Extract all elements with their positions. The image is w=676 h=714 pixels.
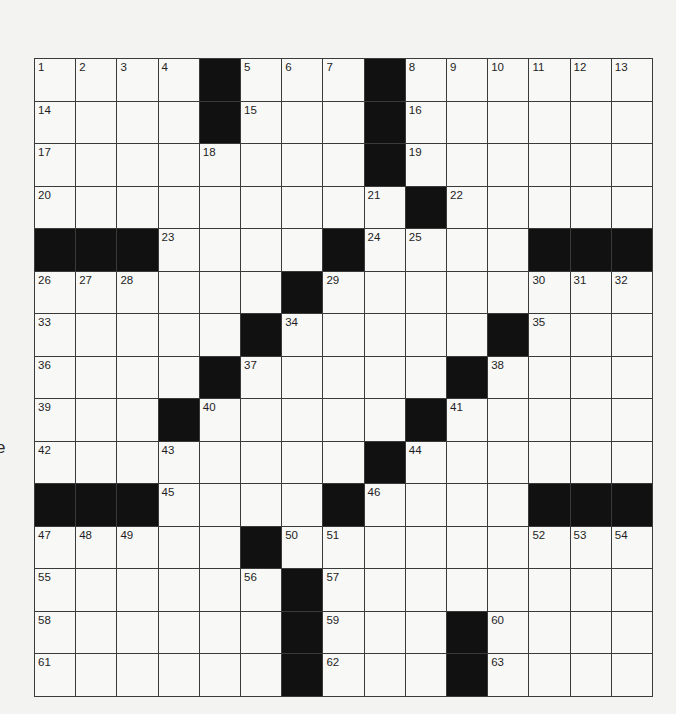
answer-cell[interactable] [611, 313, 652, 356]
answer-cell[interactable] [322, 441, 363, 484]
answer-cell[interactable]: 61 [34, 653, 75, 696]
answer-cell[interactable]: 45 [158, 483, 199, 526]
answer-cell[interactable] [487, 271, 528, 314]
answer-cell[interactable]: 18 [199, 143, 240, 186]
answer-cell[interactable] [611, 101, 652, 144]
answer-cell[interactable] [116, 611, 157, 654]
answer-cell[interactable] [75, 568, 116, 611]
answer-cell[interactable] [281, 228, 322, 271]
answer-cell[interactable]: 14 [34, 101, 75, 144]
answer-cell[interactable] [116, 313, 157, 356]
answer-cell[interactable]: 3 [116, 58, 157, 101]
answer-cell[interactable] [446, 483, 487, 526]
answer-cell[interactable] [487, 483, 528, 526]
answer-cell[interactable] [199, 313, 240, 356]
answer-cell[interactable] [158, 313, 199, 356]
answer-cell[interactable]: 46 [364, 483, 405, 526]
answer-cell[interactable]: 9 [446, 58, 487, 101]
answer-cell[interactable]: 38 [487, 356, 528, 399]
answer-cell[interactable]: 39 [34, 398, 75, 441]
answer-cell[interactable]: 22 [446, 186, 487, 229]
answer-cell[interactable]: 41 [446, 398, 487, 441]
answer-cell[interactable] [240, 653, 281, 696]
answer-cell[interactable] [281, 356, 322, 399]
answer-cell[interactable] [446, 441, 487, 484]
answer-cell[interactable] [322, 101, 363, 144]
answer-cell[interactable] [570, 653, 611, 696]
answer-cell[interactable] [199, 568, 240, 611]
answer-cell[interactable] [364, 526, 405, 569]
answer-cell[interactable] [528, 143, 569, 186]
answer-cell[interactable]: 60 [487, 611, 528, 654]
answer-cell[interactable] [240, 483, 281, 526]
answer-cell[interactable] [487, 186, 528, 229]
answer-cell[interactable] [570, 441, 611, 484]
answer-cell[interactable]: 20 [34, 186, 75, 229]
answer-cell[interactable]: 51 [322, 526, 363, 569]
answer-cell[interactable] [487, 228, 528, 271]
answer-cell[interactable] [281, 483, 322, 526]
answer-cell[interactable] [116, 186, 157, 229]
answer-cell[interactable]: 63 [487, 653, 528, 696]
answer-cell[interactable] [75, 653, 116, 696]
answer-cell[interactable] [158, 611, 199, 654]
answer-cell[interactable]: 42 [34, 441, 75, 484]
answer-cell[interactable] [199, 653, 240, 696]
answer-cell[interactable]: 27 [75, 271, 116, 314]
answer-cell[interactable] [116, 441, 157, 484]
answer-cell[interactable]: 54 [611, 526, 652, 569]
answer-cell[interactable] [570, 143, 611, 186]
answer-cell[interactable] [487, 441, 528, 484]
answer-cell[interactable] [240, 271, 281, 314]
answer-cell[interactable] [322, 398, 363, 441]
answer-cell[interactable]: 10 [487, 58, 528, 101]
answer-cell[interactable]: 49 [116, 526, 157, 569]
answer-cell[interactable]: 40 [199, 398, 240, 441]
answer-cell[interactable]: 53 [570, 526, 611, 569]
answer-cell[interactable]: 23 [158, 228, 199, 271]
answer-cell[interactable]: 17 [34, 143, 75, 186]
answer-cell[interactable]: 31 [570, 271, 611, 314]
answer-cell[interactable] [611, 653, 652, 696]
answer-cell[interactable] [75, 143, 116, 186]
answer-cell[interactable] [158, 568, 199, 611]
answer-cell[interactable] [199, 611, 240, 654]
answer-cell[interactable] [75, 398, 116, 441]
answer-cell[interactable]: 26 [34, 271, 75, 314]
answer-cell[interactable] [528, 356, 569, 399]
answer-cell[interactable] [570, 611, 611, 654]
answer-cell[interactable] [364, 653, 405, 696]
answer-cell[interactable]: 47 [34, 526, 75, 569]
answer-cell[interactable] [75, 101, 116, 144]
answer-cell[interactable] [611, 398, 652, 441]
answer-cell[interactable] [75, 186, 116, 229]
answer-cell[interactable] [75, 611, 116, 654]
answer-cell[interactable] [528, 101, 569, 144]
answer-cell[interactable] [158, 186, 199, 229]
answer-cell[interactable]: 7 [322, 58, 363, 101]
answer-cell[interactable] [322, 186, 363, 229]
answer-cell[interactable]: 4 [158, 58, 199, 101]
answer-cell[interactable] [528, 441, 569, 484]
answer-cell[interactable] [281, 101, 322, 144]
answer-cell[interactable] [570, 398, 611, 441]
answer-cell[interactable] [528, 611, 569, 654]
answer-cell[interactable] [570, 568, 611, 611]
answer-cell[interactable] [116, 143, 157, 186]
answer-cell[interactable]: 56 [240, 568, 281, 611]
answer-cell[interactable] [158, 143, 199, 186]
answer-cell[interactable] [611, 186, 652, 229]
answer-cell[interactable] [281, 186, 322, 229]
answer-cell[interactable]: 59 [322, 611, 363, 654]
answer-cell[interactable]: 19 [405, 143, 446, 186]
answer-cell[interactable] [528, 653, 569, 696]
answer-cell[interactable] [405, 483, 446, 526]
answer-cell[interactable] [75, 356, 116, 399]
answer-cell[interactable]: 12 [570, 58, 611, 101]
answer-cell[interactable] [364, 313, 405, 356]
answer-cell[interactable] [446, 101, 487, 144]
answer-cell[interactable] [364, 398, 405, 441]
answer-cell[interactable] [364, 568, 405, 611]
answer-cell[interactable]: 25 [405, 228, 446, 271]
answer-cell[interactable] [487, 398, 528, 441]
